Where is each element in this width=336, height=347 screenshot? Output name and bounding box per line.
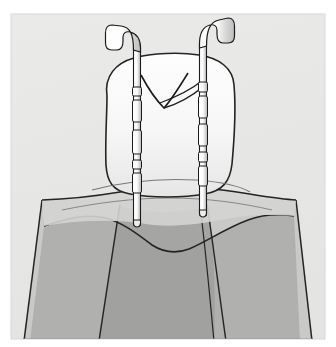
periodontal-probing-figure — [0, 0, 336, 347]
probe-left-tip — [134, 220, 141, 227]
probe-left-band-4 — [133, 160, 142, 169]
probe-right-tip — [200, 210, 207, 217]
probe-right-band-1 — [199, 82, 208, 92]
tooth-crown-body — [106, 53, 235, 197]
probe-left-band-3 — [133, 130, 142, 154]
tooth-crown-group — [92, 53, 250, 197]
probe-left-band-1 — [133, 87, 142, 96]
probe-right-band-5 — [199, 166, 208, 186]
illustration-root: Periodontal probing of an interproximal … — [0, 0, 336, 347]
probe-left-band-2 — [133, 100, 142, 122]
probe-left-band-5 — [133, 173, 142, 193]
probe-right-band-2 — [199, 96, 208, 118]
probe-right-band-3 — [199, 124, 208, 146]
probe-right-band-4 — [199, 152, 208, 162]
